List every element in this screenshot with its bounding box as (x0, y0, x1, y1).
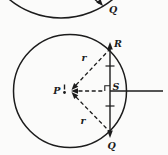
top-circle (0, 0, 142, 18)
geometry-figure: Q (0, 0, 168, 155)
point-q-label: Q (108, 140, 117, 151)
radius-upper-r-label: r (81, 52, 87, 63)
center-p-label: P (52, 85, 61, 96)
bottom-circle-figure: P R Q S r r (14, 35, 164, 151)
radius-lower-r-label: r (80, 115, 86, 126)
center-point-dot-icon (63, 91, 66, 94)
top-circle-figure: Q (0, 0, 142, 18)
point-r-label: R (113, 38, 122, 49)
chord-arrowhead-r-icon (107, 42, 113, 50)
point-s-label: S (113, 81, 120, 92)
page: { "figure": { "background_color": "#fbfb… (0, 0, 168, 155)
right-angle-mark-icon (105, 86, 110, 91)
top-point-q-label: Q (109, 4, 118, 15)
geometry-canvas: Q (0, 0, 168, 155)
